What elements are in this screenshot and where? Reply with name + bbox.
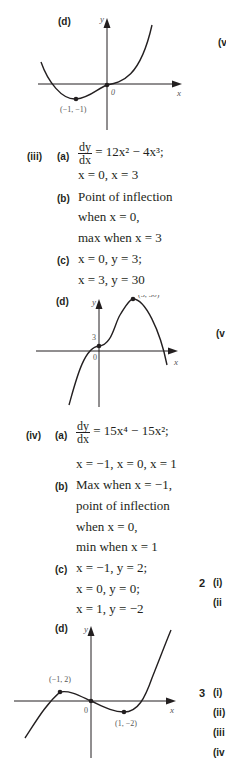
part-iii-a-line2: x = 0, x = 3 [78, 167, 138, 183]
cutoff-label-v-top: (v [218, 37, 226, 48]
x-axis-label: x [176, 88, 181, 98]
q3-part-iv: (iv [213, 747, 225, 758]
q2-part-i: (i) [213, 577, 222, 588]
part-iii-b-line3: max when x = 3 [78, 230, 162, 246]
origin-label: 0 [111, 88, 115, 97]
q3-part-i: (i) [213, 687, 222, 698]
part-iv-c-line2: x = 0, y = 0; [76, 581, 140, 597]
part-iv-a-line2: x = −1, x = 0, x = 1 [76, 456, 177, 472]
origin-label: 0 [93, 353, 97, 362]
part-iii-c-line1: x = 0, y = 3; [78, 251, 142, 267]
max-point-label: (−1, 2) [49, 675, 71, 684]
min-point-label: (1, −2) [115, 719, 137, 728]
cutoff-label-v-mid: (v [216, 328, 225, 339]
part-iii-b-line1: Point of inflection [78, 189, 173, 205]
part-iv-b-line2: point of inflection [76, 498, 170, 514]
part-iv-b-line3: when x = 0, [76, 519, 138, 535]
question-3-number: 3 [199, 687, 205, 699]
point-label: (3, 30) [138, 295, 160, 299]
question-2-number: 2 [199, 577, 205, 589]
point-label: (−1, −1) [60, 105, 87, 114]
part-iii-a-label: (a) [57, 151, 69, 162]
q2-part-ii: (ii [213, 597, 222, 608]
x-axis-label: x [169, 705, 174, 715]
graph-quartic-max: y x 0 3 (3, 30) [0, 295, 190, 410]
q3-part-ii: (ii) [213, 707, 225, 718]
part-iv-a-label: (a) [55, 430, 67, 441]
part-iv-b-line4: min when x = 1 [76, 539, 158, 555]
part-iv-label: (iv) [26, 430, 41, 441]
part-iv-c-line3: x = 1, y = −2 [76, 601, 144, 617]
y-axis-label: y [83, 624, 88, 634]
part-iii-b-label: (b) [57, 193, 70, 204]
part-iv-b-label: (b) [55, 481, 68, 492]
part-iii-label: (iii) [27, 151, 42, 162]
x-axis-label: x [173, 357, 178, 367]
part-iv-a-derivative: dydx = 15x⁴ − 15x²; [76, 420, 169, 445]
derivative-expression: = 12x² − 4x³; [95, 144, 163, 159]
part-iii-c-label: (c) [57, 255, 69, 266]
part-iv-c-line1: x = −1, y = 2; [76, 560, 147, 576]
dx: dx [76, 433, 90, 445]
y-axis-label: y [99, 14, 104, 24]
y-axis-label: y [91, 297, 96, 307]
graph-quintic: y x 0 (−1, 2) (1, −2) [0, 620, 190, 769]
part-iv-b-line1: Max when x = −1, [76, 477, 172, 493]
part-iii-a-derivative: dydx = 12x² − 4x³; [78, 141, 164, 166]
part-iii-b-line2: when x = 0, [78, 209, 140, 225]
q3-part-iii: (iii [213, 727, 225, 738]
part-iii-c-line2: x = 3, y = 30 [78, 272, 145, 288]
derivative-expression: = 15x⁴ − 15x²; [93, 423, 168, 438]
origin-label: 0 [84, 706, 88, 715]
dx: dx [78, 154, 92, 166]
intercept-label: 3 [92, 333, 96, 342]
part-iv-c-label: (c) [55, 564, 67, 575]
graph-quartic-min: y x 0 (−1, −1) [0, 0, 190, 132]
